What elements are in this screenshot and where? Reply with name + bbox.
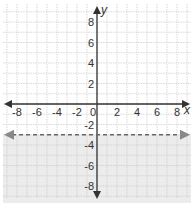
x-axis-label: x bbox=[183, 103, 191, 117]
x-tick-label: -6 bbox=[32, 106, 42, 118]
x-tick-label: -2 bbox=[72, 106, 82, 118]
y-tick-label: 4 bbox=[88, 57, 94, 69]
coordinate-plane: -8-6-4-2024688642-2-4-6-8 x y bbox=[0, 0, 194, 203]
x-tick-label: -8 bbox=[12, 106, 22, 118]
y-tick-label: 6 bbox=[88, 37, 94, 49]
x-axis-left-arrow-icon bbox=[4, 100, 12, 108]
y-axis-up-arrow-icon bbox=[93, 6, 101, 14]
y-tick-label: -8 bbox=[84, 180, 94, 192]
x-tick-label: 6 bbox=[154, 106, 160, 118]
y-tick-label: 8 bbox=[88, 16, 94, 28]
y-tick-label: -2 bbox=[84, 119, 94, 131]
y-axis-label: y bbox=[100, 3, 108, 17]
x-tick-label: 4 bbox=[134, 106, 140, 118]
x-tick-label: 2 bbox=[114, 106, 120, 118]
y-tick-label: -4 bbox=[84, 139, 94, 151]
x-tick-label: -4 bbox=[52, 106, 62, 118]
x-tick-label: 8 bbox=[174, 106, 180, 118]
x-tick-label: 0 bbox=[90, 106, 96, 118]
y-tick-label: 2 bbox=[88, 78, 94, 90]
y-tick-label: -6 bbox=[84, 160, 94, 172]
